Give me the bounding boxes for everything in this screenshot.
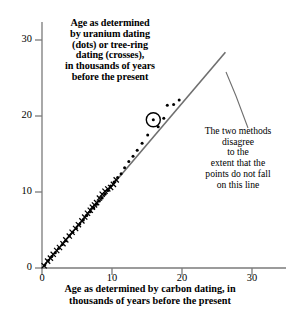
uranium-data-point (78, 222, 81, 225)
chart-title-line-5: before the present (44, 72, 176, 83)
x-axis-label-line-0: Age as determined by carbon dating, in (22, 283, 278, 295)
x-axis-tick-label-0: 0 (31, 272, 53, 283)
uranium-data-point (71, 231, 74, 234)
y-axis-tick-label-30: 30 (10, 33, 32, 44)
uranium-data-point (61, 243, 64, 246)
uranium-data-point (152, 118, 155, 121)
chart-title-line-1: by uranium dating (44, 29, 176, 40)
uranium-data-point (113, 181, 116, 184)
uranium-data-point (166, 104, 169, 107)
uranium-data-point (75, 227, 78, 230)
uranium-data-point (123, 166, 126, 169)
carbon-dating-scatter-figure: 30 20 10 0 0 10 20 30 Age as determinedb… (0, 0, 298, 318)
uranium-data-point (68, 235, 71, 238)
uranium-data-point (104, 193, 107, 196)
x-axis-label: Age as determined by carbon dating, inth… (22, 283, 278, 306)
uranium-data-point (43, 263, 46, 266)
uranium-data-point (95, 203, 98, 206)
chart-annotation-line-5: on this line (186, 180, 290, 191)
y-axis-tick-label-0: 0 (10, 261, 32, 272)
uranium-data-point (82, 219, 85, 222)
uranium-data-point (141, 142, 144, 145)
uranium-data-point (146, 134, 149, 137)
annotation-leader-line (226, 72, 248, 128)
uranium-data-point (101, 197, 104, 200)
uranium-data-point (116, 176, 119, 179)
uranium-data-point (89, 210, 92, 213)
uranium-data-point (120, 172, 123, 175)
uranium-data-point (127, 160, 130, 163)
y-axis-tick-label-20: 20 (10, 109, 32, 120)
uranium-data-point (64, 239, 67, 242)
chart-title: Age as determinedby uranium dating(dots)… (44, 18, 176, 83)
uranium-data-point (172, 103, 175, 106)
uranium-data-point (98, 200, 101, 203)
uranium-data-point (54, 251, 57, 254)
chart-annotation: The two methodsdisagreeto theextent that… (186, 126, 290, 190)
uranium-data-point (57, 247, 60, 250)
y-axis-tick-label-10: 10 (10, 185, 32, 196)
uranium-data-point (47, 259, 50, 262)
uranium-data-point (50, 255, 53, 258)
x-axis-label-line-1: thousands of years before the present (22, 295, 278, 307)
x-axis-tick-label-30: 30 (241, 272, 263, 283)
uranium-data-point (106, 189, 109, 192)
uranium-data-point (136, 149, 139, 152)
uranium-data-point (162, 117, 165, 120)
uranium-data-point (85, 214, 88, 217)
x-axis-tick-label-10: 10 (101, 272, 123, 283)
x-axis-tick-label-20: 20 (171, 272, 193, 283)
uranium-data-point (132, 155, 135, 158)
uranium-data-point (92, 206, 95, 209)
uranium-data-point (109, 184, 112, 187)
uranium-data-point (178, 99, 181, 102)
